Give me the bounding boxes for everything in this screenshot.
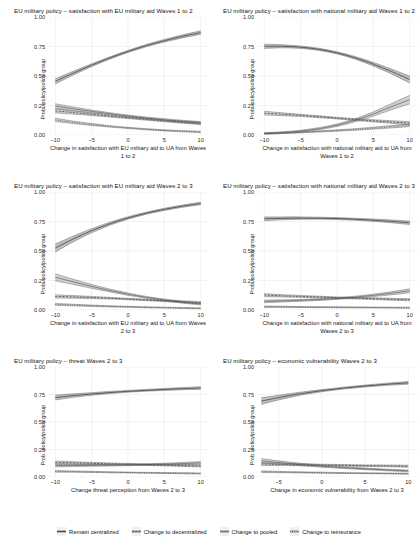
y-tick: 0.75 <box>243 392 254 398</box>
y-tick: 1.00 <box>243 189 254 195</box>
panel-2: EU military policy – satisfaction with n… <box>209 0 418 175</box>
x-tick: 5 <box>372 312 375 318</box>
y-tick: 0.00 <box>243 474 254 480</box>
y-tick: 0.50 <box>34 248 45 254</box>
y-tick: 0.25 <box>34 103 45 109</box>
x-tick: 10 <box>198 479 204 485</box>
x-tick: 5 <box>372 137 375 143</box>
y-tick: 0.50 <box>34 73 45 79</box>
plot-wrap: Prob. policy/policy group 0.000.250.500.… <box>223 17 418 161</box>
y-tick: 0.25 <box>243 103 254 109</box>
y-tick-labels: 0.000.250.500.751.00 <box>234 192 256 310</box>
x-tick: 10 <box>198 137 204 143</box>
x-tick: −10 <box>51 479 61 485</box>
x-axis-label: Change in satisfaction with EU military … <box>48 145 208 160</box>
panel-6: EU military policy – economic vulnerabil… <box>209 350 418 508</box>
panel-title: EU military policy – satisfaction with n… <box>223 182 418 189</box>
legend-label: Change to decentralized <box>144 529 207 535</box>
key-solid-band-icon <box>57 527 66 536</box>
y-tick-labels: 0.000.250.500.751.00 <box>25 367 47 477</box>
x-tick: 0 <box>335 312 338 318</box>
key-dashed-band-icon <box>132 527 141 536</box>
x-tick: 5 <box>163 479 166 485</box>
y-tick: 0.75 <box>243 44 254 50</box>
plot-area <box>48 192 208 310</box>
panel-4: EU military policy – satisfaction with n… <box>209 175 418 350</box>
x-tick: −5 <box>88 479 94 485</box>
legend-item[interactable]: Change to reinsurance <box>290 527 361 536</box>
legend-item[interactable]: Remain centralized <box>57 527 119 536</box>
plot-canvas <box>48 192 208 310</box>
y-tick: 0.00 <box>243 132 254 138</box>
y-tick: 0.75 <box>34 219 45 225</box>
legend-label: Remain centralized <box>69 529 119 535</box>
panel-title: EU military policy – threat Waves 2 to 3 <box>14 357 209 364</box>
panel-grid: EU military policy – satisfaction with E… <box>0 0 418 508</box>
x-tick: 5 <box>364 479 367 485</box>
plot-canvas <box>257 192 417 310</box>
x-tick: −5 <box>88 137 94 143</box>
plot-area <box>257 17 417 135</box>
y-tick: 1.00 <box>243 364 254 370</box>
x-tick: −5 <box>297 312 303 318</box>
y-tick: 0.75 <box>34 392 45 398</box>
x-tick: −10 <box>51 137 61 143</box>
plot-area <box>48 367 208 477</box>
y-tick-labels: 0.000.250.500.751.00 <box>234 367 256 477</box>
x-tick: −5 <box>88 312 94 318</box>
y-tick: 1.00 <box>34 14 45 20</box>
y-tick-labels: 0.000.250.500.751.00 <box>25 17 47 135</box>
panel-title: EU military policy – satisfaction with n… <box>223 7 418 14</box>
x-tick: 5 <box>163 137 166 143</box>
legend-label: Change to reinsurance <box>302 529 361 535</box>
y-tick-labels: 0.000.250.500.751.00 <box>25 192 47 310</box>
plot-wrap: Prob. policy/policy group 0.000.250.500.… <box>14 367 209 503</box>
x-axis-label: Change in satisfaction with national mil… <box>257 320 417 335</box>
y-tick: 0.25 <box>243 447 254 453</box>
x-axis-label: Change in satisfaction with EU military … <box>48 320 208 335</box>
plot-wrap: Prob. policy/policy group 0.000.250.500.… <box>223 367 418 503</box>
x-tick: −10 <box>260 312 270 318</box>
x-tick: 5 <box>163 312 166 318</box>
y-tick: 1.00 <box>243 14 254 20</box>
y-tick: 0.25 <box>34 447 45 453</box>
y-tick: 0.50 <box>243 73 254 79</box>
legend-item[interactable]: Change to decentralized <box>132 527 207 536</box>
panel-1: EU military policy – satisfaction with E… <box>0 0 209 175</box>
panel-title: EU military policy – economic vulnerabil… <box>223 357 418 364</box>
y-tick: 0.00 <box>34 474 45 480</box>
x-tick: −10 <box>260 137 270 143</box>
panel-3: EU military policy – satisfaction with E… <box>0 175 209 350</box>
x-tick: 0 <box>320 479 323 485</box>
plot-canvas <box>257 367 417 477</box>
y-tick: 0.25 <box>243 278 254 284</box>
x-tick: −10 <box>51 312 61 318</box>
legend: Remain centralizedChange to decentralize… <box>0 527 418 536</box>
plot-canvas <box>48 17 208 135</box>
plot-area <box>257 192 417 310</box>
key-dotted-band-icon <box>290 527 299 536</box>
x-tick: 10 <box>407 137 413 143</box>
x-axis-label: Change in economic vulnerability from Wa… <box>257 487 417 495</box>
y-tick: 0.00 <box>34 307 45 313</box>
x-tick: 0 <box>126 479 129 485</box>
y-tick: 0.75 <box>243 219 254 225</box>
confidence-band <box>261 382 408 405</box>
x-tick: 0 <box>126 137 129 143</box>
y-tick: 0.25 <box>34 278 45 284</box>
legend-item[interactable]: Change to pooled <box>220 527 278 536</box>
x-tick: 0 <box>126 312 129 318</box>
y-tick: 1.00 <box>34 189 45 195</box>
y-tick: 0.50 <box>34 419 45 425</box>
x-tick: 10 <box>407 312 413 318</box>
y-tick: 1.00 <box>34 364 45 370</box>
x-axis-label: Change threat perception from Waves 2 to… <box>48 487 208 495</box>
y-tick: 0.00 <box>34 132 45 138</box>
y-tick: 0.50 <box>243 248 254 254</box>
x-tick: −5 <box>297 137 303 143</box>
x-axis-label: Change in satisfaction with national mil… <box>257 145 417 160</box>
x-tick: −5 <box>275 479 281 485</box>
panel-title: EU military policy – satisfaction with E… <box>14 182 209 189</box>
plot-wrap: Prob. policy/policy group 0.000.250.500.… <box>14 17 209 161</box>
figure-panel-grid: EU military policy – satisfaction with E… <box>0 0 418 540</box>
